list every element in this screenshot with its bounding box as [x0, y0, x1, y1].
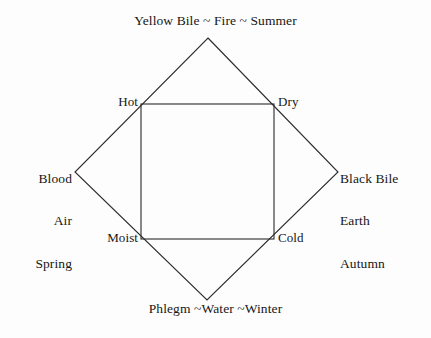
humour-label-left-element: Air — [0, 214, 72, 228]
four-humours-diagram: Yellow Bile ~ Fire ~ Summer Blood Air Sp… — [0, 0, 431, 338]
outer-diamond-shape — [75, 38, 338, 300]
humour-label-right: Black Bile Earth Autumn — [340, 143, 431, 300]
humour-label-bottom: Phlegm ~Water ~Winter — [0, 302, 431, 316]
humour-label-right-humour: Black Bile — [340, 172, 431, 186]
humour-label-right-element: Earth — [340, 214, 431, 228]
quality-label-dry: Dry — [278, 95, 348, 109]
humour-label-left-season: Spring — [0, 257, 72, 271]
quality-label-hot: Hot — [68, 95, 138, 109]
quality-label-moist: Moist — [66, 231, 138, 245]
humour-label-left: Blood Air Spring — [0, 143, 72, 300]
inner-square-shape — [141, 104, 274, 239]
quality-label-cold: Cold — [278, 231, 348, 245]
humour-label-left-humour: Blood — [0, 172, 72, 186]
humour-label-top: Yellow Bile ~ Fire ~ Summer — [0, 14, 431, 28]
humour-label-right-season: Autumn — [340, 257, 431, 271]
